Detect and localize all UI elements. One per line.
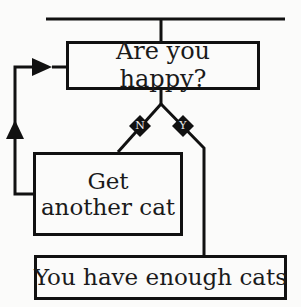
no-branch-label: N [130,116,150,136]
loop-arrow-right-icon [32,58,52,76]
loop-arrow-up-icon [6,120,24,139]
action-node-get-another-cat: Get another cat [33,152,183,236]
result-label: You have enough cats [34,264,287,290]
yes-branch-label: Y [173,116,193,136]
decision-label: Are you happy? [69,38,257,93]
terminal-node-enough-cats: You have enough cats [34,255,287,300]
decision-node-are-you-happy: Are you happy? [66,41,260,90]
action-label-line1: Get [41,168,175,194]
action-label-line2: another cat [41,194,175,220]
